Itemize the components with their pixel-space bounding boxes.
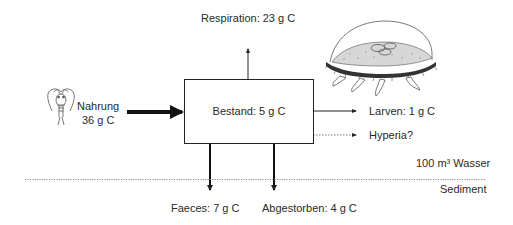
dead-label: Abgestorben: 4 g C	[262, 202, 357, 215]
respiration-label: Respiration: 23 g C	[201, 12, 295, 25]
faeces-label: Faeces: 7 g C	[171, 202, 239, 215]
larvae-label: Larven: 1 g C	[369, 105, 435, 118]
food-label-line1: Nahrung	[77, 100, 119, 113]
sediment-zone-label: Sediment	[440, 183, 486, 196]
stock-box: Bestand: 5 g C	[184, 79, 314, 144]
food-label-line2: 36 g C	[82, 114, 114, 127]
jellyfish-illustration	[325, 21, 437, 96]
stock-label: Bestand: 5 g C	[185, 105, 313, 117]
copepod-illustration	[48, 89, 75, 125]
water-zone-label: 100 m³ Wasser	[416, 157, 490, 170]
hyperia-label: Hyperia?	[369, 129, 413, 142]
